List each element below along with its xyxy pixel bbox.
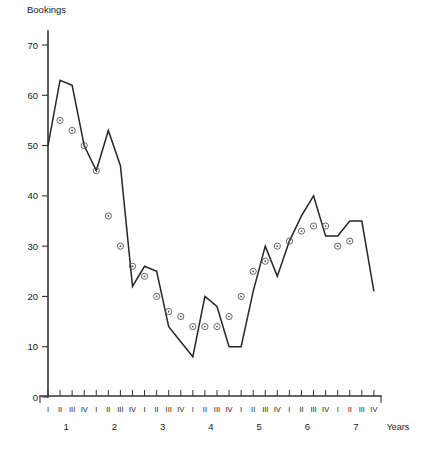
marker-center-dot bbox=[107, 215, 109, 217]
x-quarter-label: II bbox=[106, 405, 110, 414]
y-tick-label: 10 bbox=[27, 341, 38, 352]
x-quarter-label: IV bbox=[226, 405, 233, 414]
marker-center-dot bbox=[180, 316, 182, 318]
marker-center-dot bbox=[95, 170, 97, 172]
x-quarter-label: II bbox=[58, 405, 62, 414]
x-quarter-label: II bbox=[348, 405, 352, 414]
data-point-marker bbox=[214, 324, 220, 330]
y-tick-label: 50 bbox=[27, 140, 38, 151]
y-axis-ticks: 010203040506070 bbox=[27, 40, 48, 403]
y-tick-label: 30 bbox=[27, 241, 38, 252]
marker-center-dot bbox=[289, 240, 291, 242]
data-point-marker bbox=[335, 243, 341, 249]
x-quarter-label: II bbox=[299, 405, 303, 414]
x-year-label: 3 bbox=[160, 421, 165, 432]
marker-center-dot bbox=[276, 245, 278, 247]
bookings-line-series bbox=[48, 80, 374, 357]
x-quarter-label: IV bbox=[274, 405, 281, 414]
y-tick-label: 40 bbox=[27, 190, 38, 201]
marker-center-dot bbox=[216, 326, 218, 328]
x-quarter-label: I bbox=[95, 405, 97, 414]
x-quarter-label: III bbox=[262, 405, 268, 414]
y-tick-label: 70 bbox=[27, 40, 38, 51]
x-quarter-label: I bbox=[240, 405, 242, 414]
data-point-marker bbox=[298, 228, 304, 234]
data-point-marker bbox=[202, 324, 208, 330]
x-quarter-label: IV bbox=[322, 405, 329, 414]
data-point-marker bbox=[238, 293, 244, 299]
x-quarter-label: III bbox=[359, 405, 365, 414]
x-quarter-label: II bbox=[203, 405, 207, 414]
data-point-marker bbox=[141, 273, 147, 279]
x-quarter-label: III bbox=[117, 405, 123, 414]
x-axis-quarter-labels: IIIIIIIVIIIIIIIVIIIIIIIVIIIIIIIVIIIIIIIV… bbox=[47, 405, 377, 414]
x-quarter-label: II bbox=[251, 405, 255, 414]
x-quarter-label: I bbox=[47, 405, 49, 414]
x-year-label: 6 bbox=[305, 421, 310, 432]
marker-center-dot bbox=[325, 225, 327, 227]
x-quarter-label: I bbox=[192, 405, 194, 414]
bookings-chart: Bookings 010203040506070 IIIIIIIVIIIIIII… bbox=[0, 0, 422, 449]
marker-center-dot bbox=[132, 265, 134, 267]
x-axis: IIIIIIIVIIIIIIIVIIIIIIIVIIIIIIIVIIIIIIIV… bbox=[40, 390, 381, 432]
marker-center-dot bbox=[120, 245, 122, 247]
x-quarter-label: II bbox=[155, 405, 159, 414]
marker-center-dot bbox=[313, 225, 315, 227]
data-point-marker bbox=[262, 258, 268, 264]
x-quarter-label: I bbox=[337, 405, 339, 414]
x-axis-title: Years bbox=[387, 422, 410, 432]
data-point-marker bbox=[250, 268, 256, 274]
x-year-label: 4 bbox=[208, 421, 213, 432]
data-point-marker bbox=[310, 223, 316, 229]
data-point-marker bbox=[105, 213, 111, 219]
x-year-label: 2 bbox=[112, 421, 117, 432]
x-quarter-label: I bbox=[288, 405, 290, 414]
chart-canvas: Bookings 010203040506070 IIIIIIIVIIIIIII… bbox=[0, 0, 422, 449]
data-point-marker bbox=[347, 238, 353, 244]
x-quarter-label: III bbox=[166, 405, 172, 414]
x-quarter-label: III bbox=[69, 405, 75, 414]
x-year-label: 5 bbox=[257, 421, 262, 432]
x-quarter-label: III bbox=[214, 405, 220, 414]
x-axis-year-labels: 1234567 bbox=[63, 421, 358, 432]
x-quarter-label: IV bbox=[81, 405, 88, 414]
x-quarter-label: I bbox=[144, 405, 146, 414]
x-quarter-label: IV bbox=[370, 405, 377, 414]
marker-center-dot bbox=[192, 326, 194, 328]
data-point-marker bbox=[226, 313, 232, 319]
marker-center-dot bbox=[301, 230, 303, 232]
x-year-label: 7 bbox=[353, 421, 358, 432]
data-point-marker bbox=[57, 117, 63, 123]
marker-center-dot bbox=[144, 275, 146, 277]
marker-center-dot bbox=[228, 316, 230, 318]
data-point-marker bbox=[274, 243, 280, 249]
data-point-marker bbox=[69, 127, 75, 133]
marker-center-dot bbox=[156, 296, 158, 298]
data-point-marker bbox=[323, 223, 329, 229]
marker-center-dot bbox=[59, 120, 61, 122]
x-year-label: 1 bbox=[63, 421, 68, 432]
x-axis-ticks bbox=[48, 390, 374, 396]
marker-center-dot bbox=[240, 296, 242, 298]
y-axis: 010203040506070 bbox=[27, 31, 48, 403]
x-quarter-label: IV bbox=[177, 405, 184, 414]
marker-center-dot bbox=[337, 245, 339, 247]
data-point-marker bbox=[178, 313, 184, 319]
marker-center-dot bbox=[71, 130, 73, 132]
chart-title: Bookings bbox=[27, 4, 66, 15]
data-point-marker bbox=[166, 308, 172, 314]
marker-center-dot bbox=[83, 145, 85, 147]
y-tick-label: 20 bbox=[27, 291, 38, 302]
y-tick-label: 0 bbox=[33, 392, 38, 403]
data-point-marker bbox=[190, 324, 196, 330]
x-quarter-label: IV bbox=[129, 405, 136, 414]
data-point-marker bbox=[117, 243, 123, 249]
data-point-marker bbox=[154, 293, 160, 299]
x-quarter-label: III bbox=[310, 405, 316, 414]
marker-center-dot bbox=[204, 326, 206, 328]
marker-center-dot bbox=[264, 260, 266, 262]
y-tick-label: 60 bbox=[27, 90, 38, 101]
marker-center-dot bbox=[252, 270, 254, 272]
marker-center-dot bbox=[168, 311, 170, 313]
marker-center-dot bbox=[349, 240, 351, 242]
